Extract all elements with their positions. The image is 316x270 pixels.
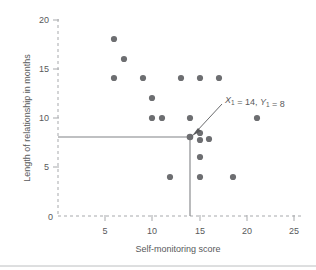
data-point bbox=[254, 115, 260, 121]
data-point bbox=[178, 75, 184, 81]
data-point bbox=[111, 75, 117, 81]
x-axis-title: Self-monitoring score bbox=[135, 244, 220, 254]
y-axis-title: Length of relationship in months bbox=[22, 54, 32, 182]
data-points bbox=[111, 36, 260, 180]
highlighted-data-point bbox=[187, 134, 194, 141]
annotation-y-equals: = bbox=[270, 99, 280, 109]
data-point bbox=[159, 115, 165, 121]
data-point bbox=[140, 75, 146, 81]
data-point bbox=[197, 154, 203, 160]
y-tick-label-0: 0 bbox=[48, 212, 53, 222]
data-point bbox=[149, 95, 155, 101]
data-point bbox=[149, 115, 155, 121]
x-tick-label-15: 15 bbox=[195, 226, 205, 236]
x-tick-label-20: 20 bbox=[242, 226, 252, 236]
data-point bbox=[197, 137, 203, 143]
plot-canvas: 20 15 10 5 0 5 10 15 20 25 Self-monitori… bbox=[0, 0, 316, 270]
x-tick-label-5: 5 bbox=[102, 226, 107, 236]
annotation-label: X1 = 14, Y1 = 8 bbox=[224, 95, 285, 109]
y-tick-label-5: 5 bbox=[44, 162, 49, 172]
data-point bbox=[111, 36, 117, 42]
y-tick-label-20: 20 bbox=[39, 15, 49, 25]
annotation-x-value: 14 bbox=[245, 97, 255, 107]
scatter-plot-figure: 20 15 10 5 0 5 10 15 20 25 Self-monitori… bbox=[0, 0, 316, 270]
y-tick-label-15: 15 bbox=[39, 64, 49, 74]
data-point bbox=[197, 174, 203, 180]
data-point bbox=[206, 136, 212, 142]
y-tick-label-10: 10 bbox=[39, 113, 49, 123]
annotation-x-equals: = bbox=[235, 97, 245, 107]
x-axis-ticks bbox=[105, 215, 294, 221]
x-tick-label-25: 25 bbox=[289, 226, 299, 236]
data-point bbox=[230, 174, 236, 180]
annotation-leader-line bbox=[196, 104, 222, 132]
data-point bbox=[187, 115, 193, 121]
data-point bbox=[167, 174, 173, 180]
annotation-y-value: 8 bbox=[280, 99, 285, 109]
data-point bbox=[197, 75, 203, 81]
data-point bbox=[216, 75, 222, 81]
x-tick-label-10: 10 bbox=[147, 226, 157, 236]
data-point bbox=[121, 56, 127, 62]
